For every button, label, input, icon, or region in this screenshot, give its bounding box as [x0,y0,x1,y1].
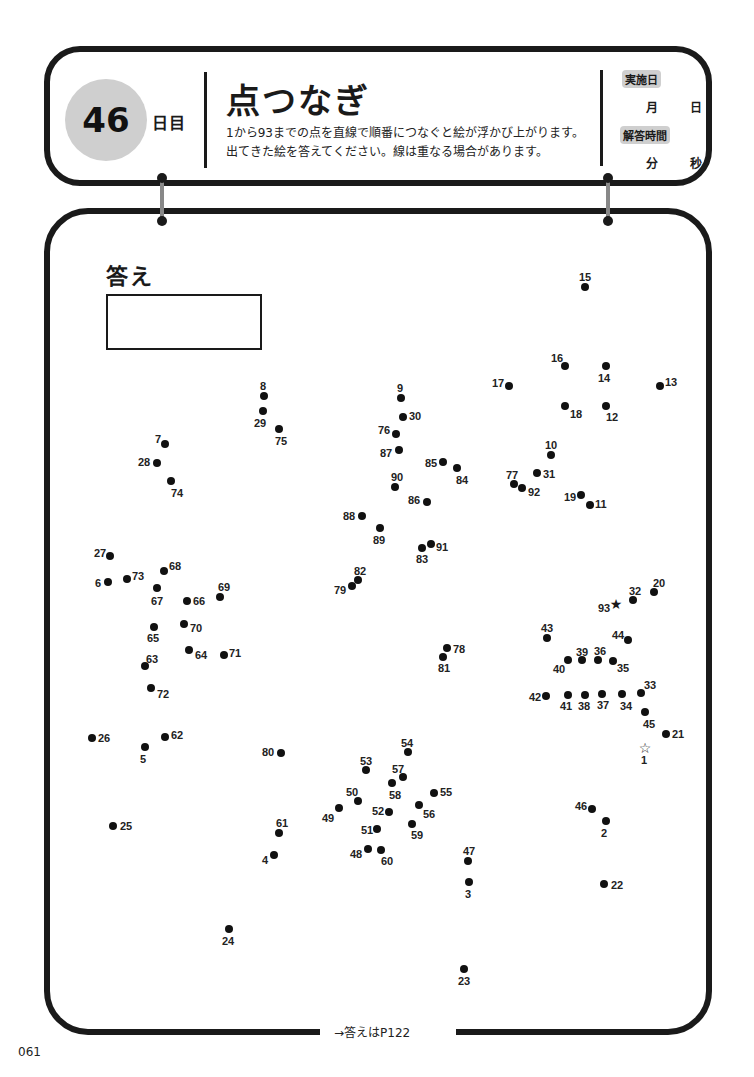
dot-label: 30 [409,410,421,422]
dot-label: 52 [372,805,384,817]
dot-label: 63 [146,653,158,665]
dot-point [358,512,366,520]
dot-point [600,880,608,888]
dot-point [180,620,188,628]
dot-label: 12 [606,411,618,423]
dot-point [533,469,541,477]
day-unit: 日 [690,98,702,115]
dot-label: 18 [570,408,582,420]
dot-point [581,691,589,699]
dot-point [373,825,381,833]
dot-label: 78 [453,643,465,655]
header-divider-left [204,72,207,168]
dot-label: 39 [576,646,588,658]
dot-point [423,498,431,506]
dot-label: 34 [620,700,632,712]
dot-label: 11 [595,498,607,510]
dot-label: 66 [193,595,205,607]
dot-label: 77 [506,469,518,481]
dot-point [465,878,473,886]
dot-point [594,656,602,664]
dot-label: 36 [594,645,606,657]
dot-point [656,382,664,390]
dot-point [377,846,385,854]
dot-label: 4 [262,854,268,866]
time-tag: 解答時間 [620,126,670,144]
instructions-line-1: 1から93までの点を直線で順番につなぐと絵が浮かび上がります。 [226,124,584,143]
dot-label: 51 [361,824,373,836]
dot-point [153,584,161,592]
dot-label: 75 [275,435,287,447]
dot-label: 92 [528,486,540,498]
dot-label: 2 [601,827,607,839]
dot-point [588,805,596,813]
dot-point [109,822,117,830]
dot-point [260,392,268,400]
dot-point [106,552,114,560]
dot-point [362,766,370,774]
dot-label: 83 [416,553,428,565]
instructions: 1から93までの点を直線で順番につなぐと絵が浮かび上がります。 出てきた絵を答え… [226,124,584,162]
dot-point [141,743,149,751]
dot-label: 70 [190,622,202,634]
answer-label: 答え [106,258,154,290]
dot-point [376,524,384,532]
instructions-line-2: 出てきた絵を答えてください。線は重なる場合があります。 [226,143,584,162]
dot-point [453,464,461,472]
dot-label: 76 [378,424,390,436]
dot-point [561,402,569,410]
dot-label: 85 [425,457,437,469]
dot-label: 65 [147,632,159,644]
dot-point [335,804,343,812]
dot-point [418,544,426,552]
dot-label: 68 [169,560,181,572]
dot-point [150,623,158,631]
dot-point [123,575,131,583]
dot-label: 24 [222,935,234,947]
dot-label: 67 [151,595,163,607]
dot-label: 81 [438,662,450,674]
dot-label: 13 [665,376,677,388]
header-divider-right [600,70,603,166]
binder-ring-right-top [603,173,613,183]
dot-point [439,653,447,661]
dot-label: 48 [350,848,362,860]
dot-label: 14 [598,372,610,384]
dot-point [397,394,405,402]
dot-point [542,692,550,700]
dot-label: 69 [218,581,230,593]
dot-label: 29 [254,417,266,429]
dot-label: 28 [138,456,150,468]
month-unit: 月 [646,98,658,115]
dot-label: 60 [381,855,393,867]
start-star-icon: ☆ [639,741,652,755]
dot-label: 90 [391,471,403,483]
page-number: 061 [18,1045,41,1059]
dot-label: 46 [575,800,587,812]
dot-label: 73 [132,570,144,582]
dot-point [88,734,96,742]
dot-point [430,789,438,797]
dot-label: 31 [543,468,555,480]
dot-point [577,491,585,499]
dot-point [408,820,416,828]
dot-point [167,477,175,485]
dot-label: 5 [140,753,146,765]
answer-input-box[interactable] [106,294,262,350]
dot-label: 10 [545,439,557,451]
dot-label: 74 [171,487,183,499]
dot-point [104,578,112,586]
dot-label: 53 [360,755,372,767]
dot-point [581,283,589,291]
dot-label: 7 [155,433,161,445]
second-unit: 秒 [690,154,702,171]
dot-point [564,691,572,699]
dot-point [392,430,400,438]
dot-point [609,657,617,665]
dot-point [518,484,526,492]
dot-point [391,483,399,491]
dot-label: 1 [641,754,647,766]
dot-point [602,402,610,410]
answer-reference: →答えはP122 [334,1023,410,1040]
dot-point [543,634,551,642]
